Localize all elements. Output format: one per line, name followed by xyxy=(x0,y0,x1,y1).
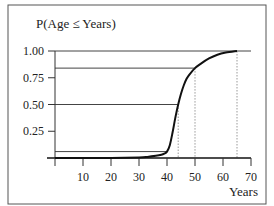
x-tick-label: 40 xyxy=(161,170,173,184)
x-tick-label: 50 xyxy=(189,170,201,184)
x-tick-label: 20 xyxy=(105,170,117,184)
x-tick-label: 60 xyxy=(217,170,229,184)
x-axis-label: Years xyxy=(229,184,258,199)
cdf-chart: P(Age ≤ Years) 0.250.500.751.00102030405… xyxy=(0,0,274,206)
y-tick-label: 0.50 xyxy=(23,98,44,112)
chart-title: P(Age ≤ Years) xyxy=(36,16,116,31)
y-tick-label: 1.00 xyxy=(23,44,44,58)
y-tick-label: 0.75 xyxy=(23,71,44,85)
y-tick-label: 0.25 xyxy=(23,124,44,138)
x-tick-label: 10 xyxy=(77,170,89,184)
x-tick-label: 70 xyxy=(245,170,257,184)
x-tick-label: 30 xyxy=(133,170,145,184)
